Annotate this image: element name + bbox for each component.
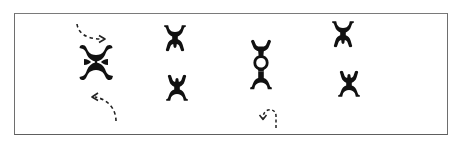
diagram-frame: Pictograph figure pairs — [14, 13, 448, 135]
dashed-rotation-arrow-bottom-icon — [89, 90, 121, 124]
dashed-curl-arrow-icon — [257, 106, 283, 130]
upright-figure — [337, 68, 361, 100]
inverted-figure — [331, 18, 355, 50]
inverted-figure — [163, 22, 187, 54]
upright-figure — [165, 72, 189, 104]
interlocked-figure-pair — [78, 43, 114, 85]
dashed-rotation-arrow-top-icon — [75, 22, 115, 44]
linked-figure-stack — [249, 35, 273, 97]
